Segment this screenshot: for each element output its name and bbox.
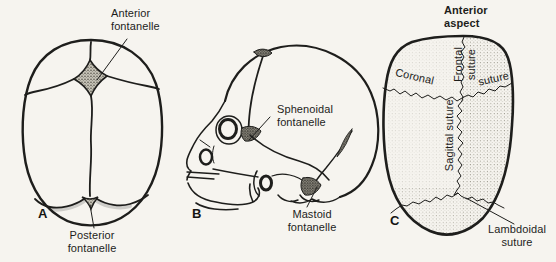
skull-line-art bbox=[0, 0, 556, 262]
panel-c-letter: C bbox=[390, 213, 399, 228]
face-profile-outline bbox=[187, 101, 225, 180]
zygomatic-arch bbox=[213, 169, 258, 177]
ear-canal-ring bbox=[261, 176, 272, 190]
sphenoidal-fontanelle-patch bbox=[241, 126, 261, 141]
frontal-suture-label: Frontal suture bbox=[452, 45, 477, 85]
metopic-suture bbox=[90, 42, 91, 61]
posterior-fontanelle-label: Posterior fontanelle bbox=[62, 229, 122, 254]
squamosal-suture-arc bbox=[250, 135, 329, 180]
panel-a-skull-top-view bbox=[23, 39, 162, 228]
anterior-leader-line bbox=[97, 39, 127, 80]
sagittal-suture-line bbox=[90, 96, 92, 196]
mastoid-fontanelle-patch bbox=[301, 177, 321, 195]
anterior-fontanelle-label: Anterior fontanelle bbox=[111, 7, 160, 32]
ear-outer-curve bbox=[254, 171, 259, 196]
mastoid-fontanelle-label: Mastoid fontanelle bbox=[284, 208, 340, 233]
lambdoid-fontanelle-wedge bbox=[337, 129, 352, 157]
sphenoidal-fontanelle-label: Sphenoidal fontanelle bbox=[277, 103, 333, 128]
fetal-skull-fontanelles-figure: Anterior fontanelle Posterior fontanelle… bbox=[0, 0, 556, 262]
coronal-suture-lateral bbox=[249, 56, 263, 134]
anterior-fontanelle-shape bbox=[74, 60, 107, 96]
anterior-aspect-heading: Anterior aspect bbox=[444, 4, 488, 29]
panel-a-letter: A bbox=[38, 206, 47, 221]
coronal-suture-left bbox=[25, 79, 74, 95]
orbit-inner-ring bbox=[220, 120, 237, 139]
coronal-suture-right bbox=[107, 76, 159, 89]
maxilla-lines bbox=[187, 172, 219, 179]
occiput-bottom-edges bbox=[278, 195, 340, 203]
sagittal-suture-label: Sagittal suture bbox=[443, 96, 456, 174]
lambdoidal-suture-label: Lambdoidal suture bbox=[486, 223, 548, 248]
nasal-aperture-ring bbox=[200, 150, 212, 165]
panel-b-letter: B bbox=[192, 206, 201, 221]
